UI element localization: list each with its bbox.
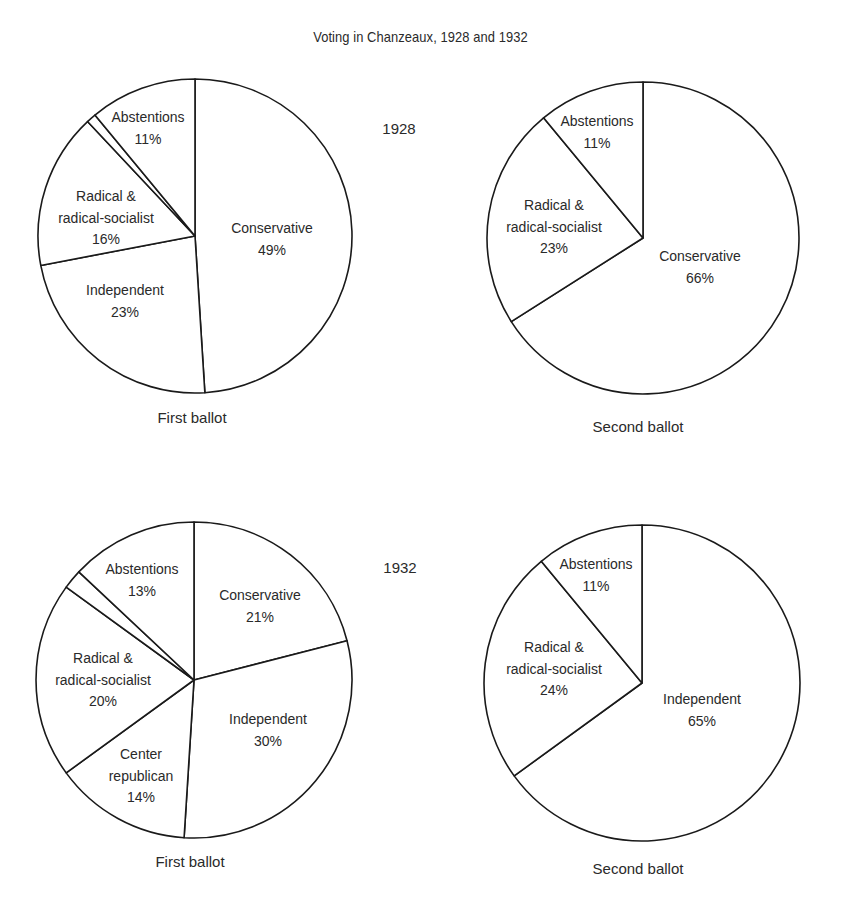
year-label-1932: 1932 [383,559,416,576]
pie-caption: First ballot [155,853,225,870]
pie-1928-second-ballot: Conservative66%Radical &radical-socialis… [487,82,799,435]
pie-1932-first-ballot: Conservative21%Independent30%Centerrepub… [36,522,352,870]
year-label-1928: 1928 [382,120,415,137]
pie-caption: Second ballot [593,860,685,877]
pie-1928-first-ballot: Conservative49%Independent23%Radical &ra… [38,79,352,426]
pie-1932-second-ballot: Independent65%Radical &radical-socialist… [484,525,800,877]
pie-caption: First ballot [157,409,227,426]
pie-caption: Second ballot [593,418,685,435]
pie-charts-figure: Conservative49%Independent23%Radical &ra… [0,0,841,903]
